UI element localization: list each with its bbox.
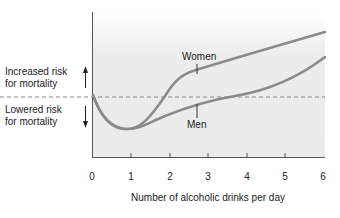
women-label: Women (182, 51, 216, 63)
x-axis-label: Number of alcoholic drinks per day (92, 192, 324, 203)
x-tick-6: 6 (316, 171, 330, 182)
men-label: Men (187, 119, 206, 131)
increased-risk-label-1: Increased risk (5, 66, 67, 78)
x-tick-0: 0 (85, 171, 99, 182)
lowered-risk-label-2: for mortality (5, 116, 57, 128)
x-tick-5: 5 (278, 171, 292, 182)
plot-area (92, 12, 325, 157)
down-arrow-icon (83, 106, 88, 128)
x-tick-2: 2 (163, 171, 177, 182)
x-tick-1: 1 (124, 171, 138, 182)
up-arrow-icon (83, 66, 88, 88)
x-tick-3: 3 (201, 171, 215, 182)
lowered-risk-label-1: Lowered risk (5, 104, 62, 116)
increased-risk-label-2: for mortality (5, 78, 57, 90)
x-tick-4: 4 (240, 171, 254, 182)
